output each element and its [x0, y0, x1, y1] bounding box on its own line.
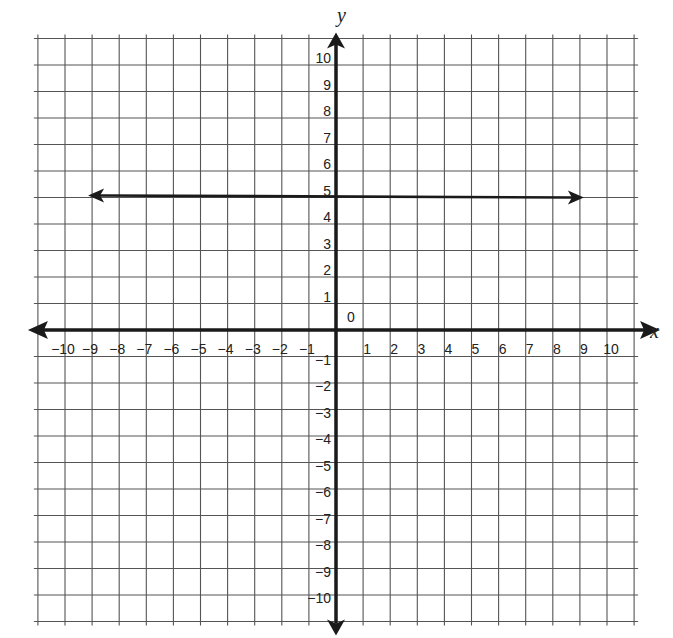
origin-label: 0 [347, 309, 355, 325]
y-tick-label: 4 [323, 209, 331, 225]
y-tick-label: −8 [315, 537, 331, 553]
y-tick-label: −6 [315, 484, 331, 500]
y-tick-label: 3 [323, 236, 331, 252]
x-tick-label: −8 [109, 341, 125, 357]
y-axis-label: y [335, 4, 346, 27]
y-tick-label: 1 [323, 289, 331, 305]
x-axis-label: x [649, 320, 659, 342]
y-tick-label: 2 [323, 262, 331, 278]
x-tick-label: −7 [136, 341, 152, 357]
y-tick-label: −5 [315, 458, 331, 474]
x-tick-label: 3 [417, 341, 425, 357]
y-tick-label: 8 [323, 103, 331, 119]
y-tick-label: 10 [315, 50, 331, 66]
x-tick-label: −4 [218, 341, 234, 357]
y-tick-label: −7 [315, 511, 331, 527]
coordinate-plane: −10−9−8−7−6−5−4−3−2−11234567891010987654… [0, 0, 673, 638]
y-tick-label: −10 [307, 590, 331, 606]
x-tick-label: −6 [163, 341, 179, 357]
x-tick-label: 2 [390, 341, 398, 357]
x-tick-label: 9 [580, 341, 588, 357]
x-tick-label: 7 [526, 341, 534, 357]
y-tick-label: 7 [323, 130, 331, 146]
x-tick-label: −5 [191, 341, 207, 357]
x-tick-label: 10 [603, 341, 619, 357]
y-tick-label: 9 [323, 77, 331, 93]
x-tick-label: −3 [245, 341, 261, 357]
x-tick-label: −10 [51, 341, 75, 357]
x-tick-label: 8 [553, 341, 561, 357]
x-tick-label: −1 [299, 341, 315, 357]
y-tick-label: −9 [315, 564, 331, 580]
x-tick-label: 6 [499, 341, 507, 357]
y-tick-label: −3 [315, 405, 331, 421]
x-tick-label: 1 [363, 341, 371, 357]
y-tick-label: −4 [315, 431, 331, 447]
x-tick-label: 5 [472, 341, 480, 357]
x-tick-label: −9 [82, 341, 98, 357]
x-tick-label: 4 [445, 341, 453, 357]
y-tick-label: 6 [323, 156, 331, 172]
y-tick-label: −1 [315, 352, 331, 368]
axes [28, 33, 660, 636]
y-tick-label: 5 [323, 183, 331, 199]
x-tick-label: −2 [272, 341, 288, 357]
y-tick-label: −2 [315, 378, 331, 394]
